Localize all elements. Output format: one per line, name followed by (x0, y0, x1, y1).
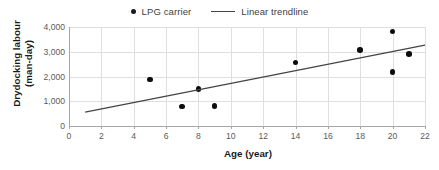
gridline-vertical (134, 27, 135, 126)
x-axis-tick-label: 12 (251, 131, 275, 141)
y-axis-tick-label: 4,000 (27, 22, 65, 32)
gridline-vertical (263, 27, 264, 126)
gridline-vertical (328, 27, 329, 126)
x-axis-tick-mark (425, 126, 426, 129)
data-point (212, 103, 218, 109)
gridline-vertical (231, 27, 232, 126)
gridline-vertical (360, 27, 361, 126)
x-axis-line (69, 126, 426, 127)
x-axis-tick-label: 20 (381, 131, 405, 141)
gridline-vertical (166, 27, 167, 126)
data-point (196, 86, 202, 92)
x-axis-tick-mark (296, 126, 297, 129)
x-axis-tick-label: 6 (154, 131, 178, 141)
legend-label-lpg-carrier: LPG carrier (142, 6, 192, 17)
legend-entry-lpg-carrier: LPG carrier (131, 6, 192, 17)
legend-entry-linear-trendline: Linear trendline (211, 6, 308, 17)
data-point (390, 69, 396, 75)
y-axis-tick-labels: 01,0002,0003,0004,000 (25, 0, 65, 170)
gridline-horizontal (69, 77, 425, 78)
x-axis-tick-label: 8 (186, 131, 210, 141)
y-axis-line (69, 27, 70, 127)
gridline-vertical (296, 27, 297, 126)
legend-dot-marker-icon (131, 9, 136, 14)
x-axis-tick-mark (198, 126, 199, 129)
y-axis-tick-label: 1,000 (27, 96, 65, 106)
x-axis-tick-label: 22 (413, 131, 437, 141)
x-axis-tick-mark (328, 126, 329, 129)
gridline-horizontal (69, 101, 425, 102)
data-point (390, 29, 396, 35)
gridline-vertical (101, 27, 102, 126)
gridline-vertical (393, 27, 394, 126)
x-axis-tick-label: 0 (57, 131, 81, 141)
x-axis-tick-label: 16 (316, 131, 340, 141)
gridline-horizontal (69, 27, 425, 28)
plot-area (69, 27, 425, 126)
x-axis-tick-mark (231, 126, 232, 129)
x-axis-tick-mark (360, 126, 361, 129)
gridline-horizontal (69, 52, 425, 53)
legend-line-marker-icon (211, 11, 235, 12)
data-point (179, 104, 185, 110)
y-axis-tick-label: 3,000 (27, 47, 65, 57)
data-point (406, 51, 412, 57)
y-axis-tick-label: 2,000 (27, 72, 65, 82)
x-axis-tick-mark (134, 126, 135, 129)
x-axis-tick-label: 10 (219, 131, 243, 141)
x-axis-tick-mark (263, 126, 264, 129)
x-axis-tick-mark (166, 126, 167, 129)
y-axis-title-line-1: Drydocking labour (11, 8, 23, 120)
y-axis-tick-label: 0 (27, 121, 65, 131)
gridline-vertical (425, 27, 426, 126)
legend-label-linear-trendline: Linear trendline (241, 6, 308, 17)
x-axis-title: Age (year) (69, 148, 427, 159)
x-axis-tick-mark (393, 126, 394, 129)
chart-legend: LPG carrier Linear trendline (0, 2, 439, 20)
x-axis-tick-label: 4 (122, 131, 146, 141)
gridline-vertical (198, 27, 199, 126)
x-axis-tick-mark (101, 126, 102, 129)
scatter-chart: LPG carrier Linear trendline Drydocking … (0, 0, 439, 170)
data-point (147, 77, 153, 83)
x-axis-tick-label: 14 (284, 131, 308, 141)
data-point (293, 60, 299, 66)
x-axis-tick-mark (69, 126, 70, 129)
x-axis-tick-label: 2 (89, 131, 113, 141)
x-axis-tick-label: 18 (348, 131, 372, 141)
